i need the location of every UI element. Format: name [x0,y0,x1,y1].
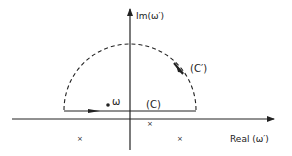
contour-c-arrow-icon [88,109,100,113]
imaginary-axis-label: Im(ω′) [136,11,164,21]
contour-diagram: ω (C) (C′) Im(ω′) Real (ω′) × × × [0,0,292,156]
pole-marker-icon: × [147,120,153,128]
contour-c-prime-label: (C′) [190,63,207,74]
contour-c-label: (C) [146,99,161,110]
real-axis-label: Real (ω′) [230,134,269,144]
pole-marker-icon: × [77,135,83,143]
omega-point [106,103,110,107]
pole-marker-icon: × [177,135,183,143]
omega-label: ω [112,96,120,107]
